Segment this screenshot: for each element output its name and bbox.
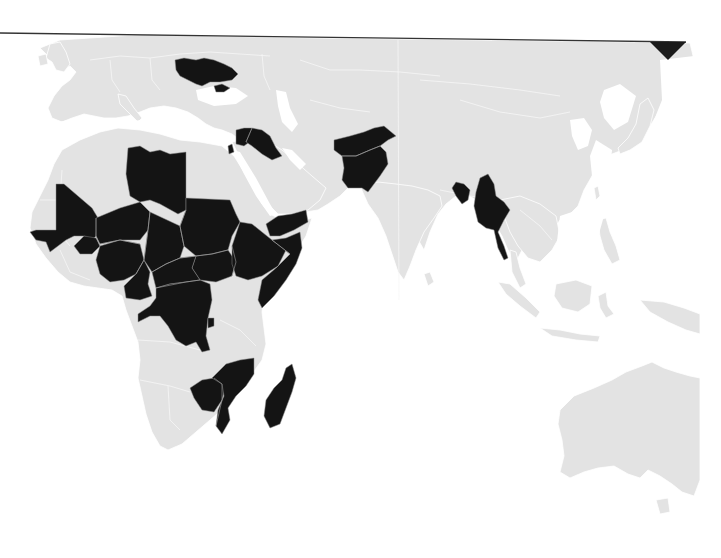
land-java xyxy=(540,328,600,342)
country-madagascar[interactable] xyxy=(264,364,296,428)
map-canvas xyxy=(0,0,721,558)
land-borneo xyxy=(554,280,592,312)
land-taiwan xyxy=(594,186,600,200)
land-australia xyxy=(558,362,700,496)
gulf-of-guinea xyxy=(64,290,122,312)
land-sumatra xyxy=(498,282,540,318)
land-srilanka xyxy=(424,272,434,286)
country-lebanon[interactable] xyxy=(228,144,234,154)
land-newguinea xyxy=(640,300,700,334)
world-map: Ukraine Syria Lebanon Iraq Libya Mali Bu… xyxy=(0,0,721,558)
land-tasmania xyxy=(656,498,670,514)
country-burundi[interactable] xyxy=(208,318,214,328)
land-ireland xyxy=(38,54,48,66)
land-sulawesi xyxy=(598,292,614,318)
south-china-sea xyxy=(556,206,604,268)
